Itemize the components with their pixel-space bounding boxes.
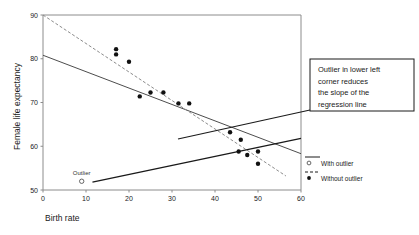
data-point [114,47,118,51]
data-point [228,130,232,134]
y-tick-label: 80 [30,55,38,62]
legend-marker-filled-circle [307,176,311,180]
data-point [176,101,180,105]
x-tick-label: 50 [254,195,262,202]
scatter-plot-svg: 5060708090 0102030405060 Outlier Female … [0,0,419,235]
data-point [114,52,118,56]
data-point [127,60,131,64]
legend-label: With outlier [321,160,354,167]
legend-marker-open-circle [307,161,311,165]
callout-line: regression line [318,100,367,109]
data-points-with-outlier [80,179,84,183]
y-tick-label: 90 [30,12,38,19]
y-tick-label: 70 [30,99,38,106]
data-point [245,153,249,157]
data-point [256,162,260,166]
x-tick-label: 60 [297,195,305,202]
x-tick-label: 20 [125,195,133,202]
legend-label: Without outlier [321,175,363,182]
data-point [138,94,142,98]
data-point [256,149,260,153]
data-point [239,137,243,141]
legend: With outlierWithout outlier [305,157,363,182]
data-point [187,101,191,105]
x-tick-label: 10 [82,195,90,202]
callout-line: corner reduces [318,77,368,86]
x-axis-title: Birth rate [45,213,80,223]
y-axis-ticks: 5060708090 [30,12,43,194]
data-point [148,90,152,94]
y-axis-title: Female life expectancy [12,62,22,150]
fit-line [43,15,286,176]
callout-line: the slope of the [318,88,369,97]
x-tick-label: 40 [211,195,219,202]
regression-lines [43,15,301,182]
y-tick-label: 60 [30,143,38,150]
y-tick-label: 50 [30,187,38,194]
outlier-point [80,179,84,183]
outlier-point-label: Outlier [73,170,91,176]
fit-line [92,138,301,182]
fit-line [43,55,301,153]
chart-figure: 5060708090 0102030405060 Outlier Female … [0,0,419,235]
data-point [161,90,165,94]
callout-line: Outlier in lower left [318,65,381,74]
x-axis-ticks: 0102030405060 [41,190,305,202]
x-tick-label: 0 [41,195,45,202]
x-tick-label: 30 [168,195,176,202]
data-point [236,149,240,153]
plot-frame [43,15,301,190]
data-points-without-outlier [114,47,260,166]
plot-annotations: Outlier [73,170,91,176]
